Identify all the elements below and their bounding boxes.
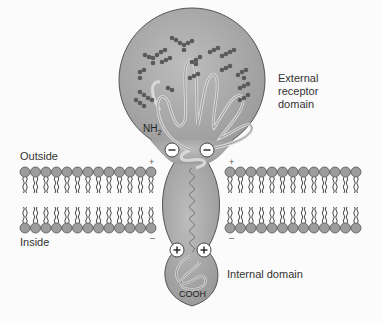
label-line-3: domain: [278, 98, 318, 111]
membrane-right: [225, 167, 361, 233]
label-inside: Inside: [20, 236, 49, 249]
label-cooh: COOH: [179, 288, 206, 301]
membrane-minus-left: –: [150, 233, 155, 243]
positive-charge-right: [197, 243, 211, 257]
label-line-1: External: [278, 72, 318, 85]
receptor-protein: [119, 8, 265, 306]
label-outside: Outside: [20, 150, 58, 163]
membrane-plus-right: +: [229, 157, 234, 167]
positive-charge-left: [170, 243, 184, 257]
membrane-left: [20, 167, 156, 233]
label-line-2: receptor: [278, 85, 318, 98]
nh2-subscript: 2: [157, 129, 161, 136]
label-internal-domain: Internal domain: [227, 268, 303, 281]
label-external-receptor-domain: External receptor domain: [278, 72, 318, 111]
membrane-plus-left: +: [149, 157, 154, 167]
nh2-text: NH: [143, 123, 157, 134]
negative-charge-left: [165, 143, 179, 157]
negative-charge-right: [200, 143, 214, 157]
membrane-minus-right: –: [229, 233, 234, 243]
label-nh2: NH2: [143, 122, 161, 139]
